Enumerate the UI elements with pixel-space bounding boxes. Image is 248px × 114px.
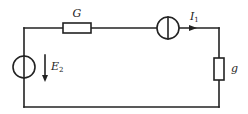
voltage-source-label: E2	[50, 60, 64, 74]
resistor-G-body	[63, 23, 91, 33]
resistor-G: G	[63, 7, 91, 33]
voltage-source-E2: E2	[13, 55, 64, 82]
resistor-G-label: G	[73, 7, 82, 20]
resistor-g-body	[214, 58, 224, 80]
current-source-I1: I1	[157, 10, 199, 39]
circuit-diagram: G I1 g E2	[0, 0, 248, 114]
current-arrow-icon	[189, 25, 197, 31]
resistor-g: g	[214, 58, 238, 80]
resistor-g-label: g	[231, 62, 238, 75]
current-source-label: I1	[189, 10, 199, 24]
voltage-arrow-icon	[42, 75, 48, 82]
